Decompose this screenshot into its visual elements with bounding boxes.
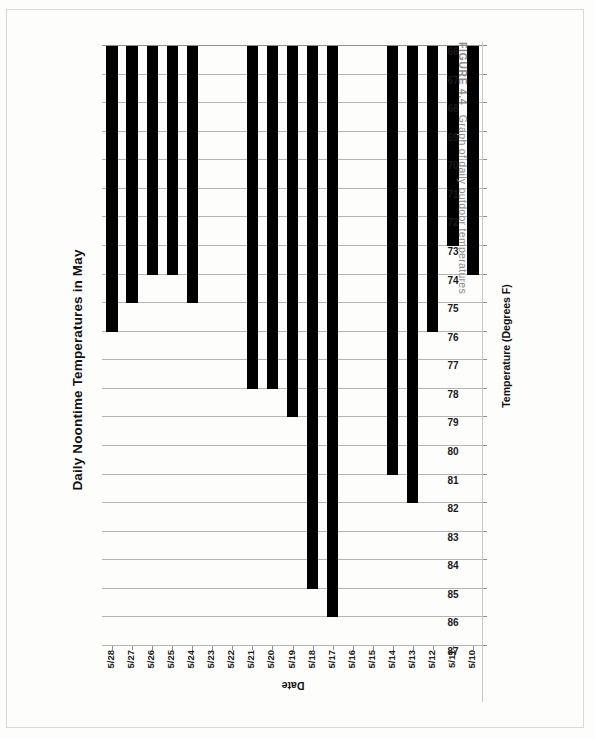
- plot-area: 5/105/115/125/135/145/155/165/175/185/19…: [102, 46, 483, 646]
- bar: [246, 46, 257, 389]
- y-axis-tick: [112, 646, 113, 650]
- caption-figure-number: FIGURE 4.4: [457, 42, 469, 105]
- y-axis-tick-label: 5/23: [205, 650, 216, 680]
- caption-divider: [482, 42, 483, 702]
- chart-title: Daily Noontime Temperatures in May: [70, 20, 85, 720]
- bar: [326, 46, 337, 617]
- y-axis-tick-label: 5/22: [225, 650, 236, 680]
- gridline: [102, 587, 483, 588]
- y-axis-tick: [172, 646, 173, 650]
- gridline: [102, 502, 483, 503]
- y-axis-tick: [192, 646, 193, 650]
- bar: [306, 46, 317, 589]
- bar: [266, 46, 277, 389]
- caption-description: Graph of daily outdoor temperatures: [457, 115, 469, 294]
- figure-caption: FIGURE 4.4 Graph of daily outdoor temper…: [429, 0, 489, 739]
- y-axis-tick-label: 5/26: [145, 650, 156, 680]
- y-axis-tick-label: 5/21: [245, 650, 256, 680]
- y-axis-tick-label: 5/15: [365, 650, 376, 680]
- bar: [166, 46, 177, 275]
- y-axis-tick: [392, 646, 393, 650]
- y-axis-tick-label: 5/19: [285, 650, 296, 680]
- y-axis-tick: [312, 646, 313, 650]
- y-axis-tick-label: 5/25: [165, 650, 176, 680]
- y-axis-tick: [292, 646, 293, 650]
- y-axis-tick-label: 5/18: [305, 650, 316, 680]
- y-axis-tick-label: 5/24: [185, 650, 196, 680]
- caption-spacer: [457, 105, 469, 115]
- bar: [286, 46, 297, 417]
- y-axis-tick: [412, 646, 413, 650]
- bar: [407, 46, 418, 503]
- y-axis-tick-label: 5/17: [325, 650, 336, 680]
- y-axis-tick-label: 5/13: [405, 650, 416, 680]
- y-axis-tick: [252, 646, 253, 650]
- gridline: [102, 559, 483, 560]
- scanned-page: Daily Noontime Temperatures in May 5/105…: [0, 0, 595, 739]
- figure-rotated-container: Daily Noontime Temperatures in May 5/105…: [0, 0, 595, 739]
- y-axis-tick-label: 5/16: [345, 650, 356, 680]
- y-axis-tick-label: 5/14: [385, 650, 396, 680]
- y-axis-title: Date: [281, 680, 304, 692]
- bar: [126, 46, 137, 303]
- y-axis-tick-label: 5/27: [125, 650, 136, 680]
- gridline: [102, 616, 483, 617]
- y-axis-tick: [352, 646, 353, 650]
- caption-text: FIGURE 4.4 Graph of daily outdoor temper…: [457, 42, 469, 294]
- bar: [146, 46, 157, 275]
- bar: [106, 46, 117, 332]
- x-axis-title: Temperature (Degrees F): [500, 46, 512, 646]
- y-axis-tick: [332, 646, 333, 650]
- y-axis-tick-label: 5/28: [105, 650, 116, 680]
- y-axis-tick-label: 5/20: [265, 650, 276, 680]
- y-axis-tick: [232, 646, 233, 650]
- bar: [387, 46, 398, 475]
- y-axis-tick: [152, 646, 153, 650]
- y-axis-tick: [272, 646, 273, 650]
- y-axis-tick: [132, 646, 133, 650]
- y-axis-tick: [372, 646, 373, 650]
- gridline: [102, 445, 483, 446]
- gridline: [102, 473, 483, 474]
- bar: [186, 46, 197, 303]
- y-axis-tick: [212, 646, 213, 650]
- gridline: [102, 530, 483, 531]
